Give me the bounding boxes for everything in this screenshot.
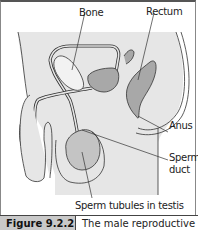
male-reproductive-diagram <box>0 0 198 215</box>
label-sperm-tubules: Sperm tubules in testis <box>75 200 184 211</box>
label-anus: Anus <box>169 120 193 131</box>
label-sperm-duct-line1: Sperm <box>169 152 198 163</box>
label-bone: Bone <box>79 7 103 18</box>
caption-number: Figure 9.2.2 <box>0 216 76 230</box>
figure-caption: Figure 9.2.2 The male reproductive <box>0 215 198 230</box>
label-rectum: Rectum <box>146 6 182 17</box>
caption-text: The male reproductive <box>76 216 198 230</box>
label-sperm-duct-line2: duct <box>169 164 190 175</box>
